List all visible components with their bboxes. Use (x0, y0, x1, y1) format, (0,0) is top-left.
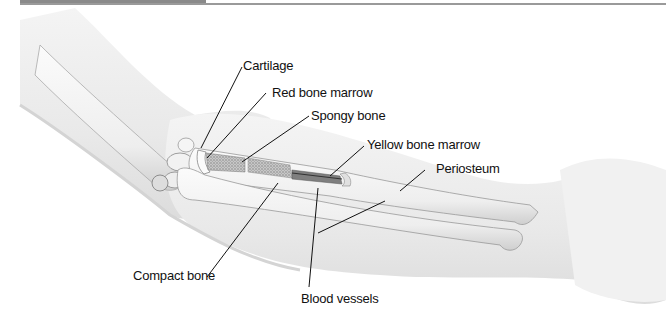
label-cartilage: Cartilage (243, 58, 293, 73)
hand (560, 158, 666, 301)
label-yellow-bone-marrow: Yellow bone marrow (367, 137, 480, 152)
label-spongy-bone: Spongy bone (311, 108, 385, 123)
label-red-bone-marrow: Red bone marrow (272, 85, 372, 100)
label-periosteum: Periosteum (436, 161, 500, 176)
label-blood-vessels: Blood vessels (301, 291, 379, 306)
arm-illustration (0, 0, 666, 335)
bone-diagram: Cartilage Red bone marrow Spongy bone Ye… (0, 0, 666, 335)
label-compact-bone: Compact bone (133, 268, 215, 283)
